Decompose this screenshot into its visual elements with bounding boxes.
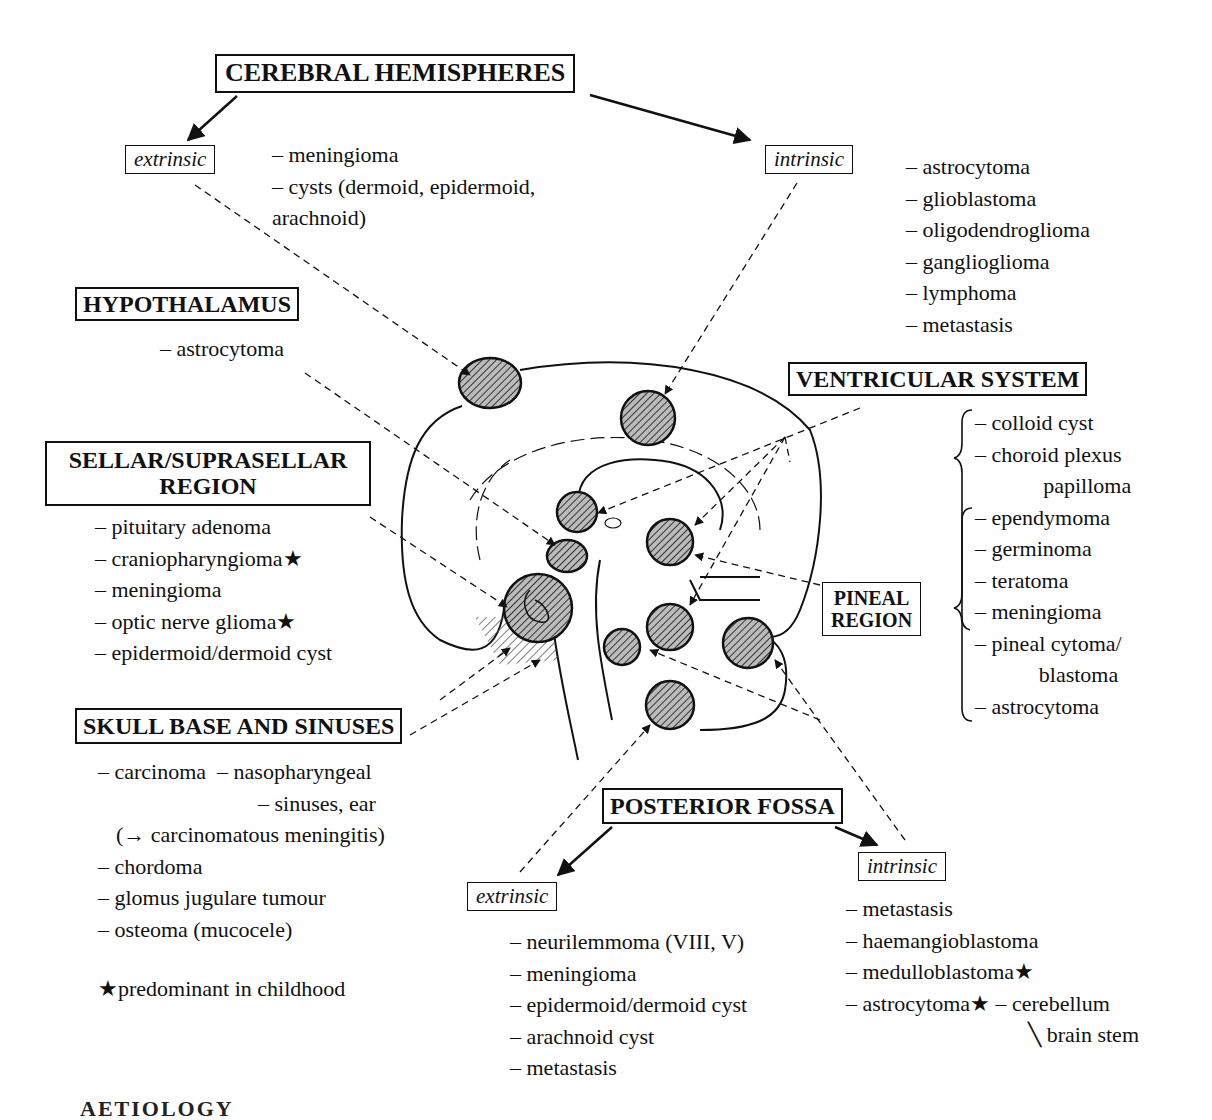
list-item: – pituitary adenoma bbox=[95, 511, 332, 543]
list-item: – teratoma bbox=[975, 565, 1131, 597]
list-item: – epidermoid/dermoid cyst bbox=[510, 989, 747, 1021]
label-fossa-intrinsic: intrinsic bbox=[858, 852, 946, 881]
list-item: – oligodendroglioma bbox=[906, 214, 1090, 246]
list-item: papilloma bbox=[975, 470, 1131, 502]
list-item: (→ carcinomatous meningitis) bbox=[98, 819, 385, 851]
list-item: – metastasis bbox=[906, 309, 1090, 341]
label-cerebral-intrinsic: intrinsic bbox=[765, 145, 853, 174]
lesion-ventricle-1 bbox=[557, 492, 597, 532]
lesion-cerebellum bbox=[723, 618, 773, 668]
lesion-brainstem bbox=[646, 681, 694, 729]
list-item: – astrocytoma bbox=[975, 691, 1131, 723]
list-cerebral-intrinsic: – astrocytoma – glioblastoma – oligodend… bbox=[906, 151, 1090, 340]
list-item: – colloid cyst bbox=[975, 407, 1131, 439]
lesion-pineal bbox=[604, 629, 640, 665]
list-item: – astrocytoma bbox=[160, 333, 284, 365]
arrow-fossa-intrinsic bbox=[835, 827, 877, 845]
list-fossa-extrinsic: – neurilemmoma (VIII, V) – meningioma – … bbox=[510, 926, 747, 1084]
arrow-fossa-extrinsic bbox=[558, 827, 612, 875]
header-cerebral-hemispheres: CEREBRAL HEMISPHERES bbox=[215, 54, 575, 93]
list-sellar: – pituitary adenoma – craniopharyngioma★… bbox=[95, 511, 332, 669]
list-item: arachnoid) bbox=[272, 202, 535, 234]
list-fossa-intrinsic: – metastasis – haemangioblastoma – medul… bbox=[846, 893, 1139, 1051]
lesion-sellar bbox=[504, 574, 572, 642]
lesion-intrinsic-cerebral bbox=[621, 391, 675, 445]
header-sellar-suprasellar: SELLAR/SUPRASELLAR REGION bbox=[45, 441, 371, 506]
list-item: – metastasis bbox=[510, 1052, 747, 1084]
list-item: blastoma bbox=[975, 659, 1131, 691]
lesion-ventricle-3 bbox=[647, 519, 693, 565]
lesion-group bbox=[459, 358, 773, 729]
list-item: – glomus jugulare tumour bbox=[98, 882, 385, 914]
list-hypothalamus: – astrocytoma bbox=[160, 333, 284, 365]
header-line: REGION bbox=[47, 473, 369, 499]
list-item: – pineal cytoma/ bbox=[975, 628, 1131, 660]
list-item: – lymphoma bbox=[906, 277, 1090, 309]
list-item: – sinuses, ear bbox=[98, 788, 385, 820]
label-fossa-extrinsic: extrinsic bbox=[467, 882, 557, 911]
list-item: – astrocytoma bbox=[906, 151, 1090, 183]
list-item: – neurilemmoma (VIII, V) bbox=[510, 926, 747, 958]
list-item: – meningioma bbox=[975, 596, 1131, 628]
list-item: – metastasis bbox=[846, 893, 1139, 925]
list-item: – arachnoid cyst bbox=[510, 1021, 747, 1053]
list-item: – choroid plexus bbox=[975, 439, 1131, 471]
header-pineal-region: PINEAL REGION bbox=[822, 582, 921, 636]
list-item: – osteoma (mucocele) bbox=[98, 914, 385, 946]
list-item: – ganglioglioma bbox=[906, 246, 1090, 278]
list-item: – optic nerve glioma★ bbox=[95, 606, 332, 638]
label-cerebral-extrinsic: extrinsic bbox=[125, 145, 215, 174]
list-skull-base: – carcinoma – nasopharyngeal – sinuses, … bbox=[98, 756, 385, 945]
list-item: – chordoma bbox=[98, 851, 385, 883]
list-item: – meningioma bbox=[510, 958, 747, 990]
cutoff-section-heading: AETIOLOGY bbox=[80, 1096, 234, 1120]
header-ventricular-system: VENTRICULAR SYSTEM bbox=[788, 362, 1087, 396]
list-item: – epidermoid/dermoid cyst bbox=[95, 637, 332, 669]
list-item: – cysts (dermoid, epidermoid, bbox=[272, 171, 535, 203]
header-line: REGION bbox=[831, 609, 912, 631]
header-line: SELLAR/SUPRASELLAR bbox=[47, 447, 369, 473]
lesion-extrinsic-cerebral bbox=[459, 358, 521, 408]
header-posterior-fossa: POSTERIOR FOSSA bbox=[602, 788, 843, 824]
list-item: – haemangioblastoma bbox=[846, 925, 1139, 957]
list-item: – meningioma bbox=[272, 139, 535, 171]
list-item: – medulloblastoma★ bbox=[846, 956, 1139, 988]
header-line: PINEAL bbox=[831, 587, 912, 609]
list-item: – glioblastoma bbox=[906, 183, 1090, 215]
list-item: – germinoma bbox=[975, 533, 1131, 565]
list-item: – astrocytoma★ – cerebellum bbox=[846, 988, 1139, 1020]
list-ventricular: – colloid cyst – choroid plexus papillom… bbox=[975, 407, 1131, 722]
footnote-childhood: ★predominant in childhood bbox=[98, 976, 345, 1002]
list-item: – ependymoma bbox=[975, 502, 1131, 534]
lesion-ventricle-4 bbox=[647, 604, 693, 650]
list-item: – craniopharyngioma★ bbox=[95, 543, 332, 575]
list-item: – carcinoma – nasopharyngeal bbox=[98, 756, 385, 788]
header-skull-base-sinuses: SKULL BASE AND SINUSES bbox=[75, 708, 402, 744]
lesion-hypothalamus bbox=[547, 540, 587, 572]
list-item: ╲ brain stem bbox=[846, 1019, 1139, 1051]
list-item: – meningioma bbox=[95, 574, 332, 606]
arrow-cerebral-intrinsic bbox=[590, 95, 750, 140]
list-cerebral-extrinsic: – meningioma – cysts (dermoid, epidermoi… bbox=[272, 139, 535, 234]
header-hypothalamus: HYPOTHALAMUS bbox=[75, 287, 299, 321]
arrow-cerebral-extrinsic bbox=[188, 96, 237, 140]
